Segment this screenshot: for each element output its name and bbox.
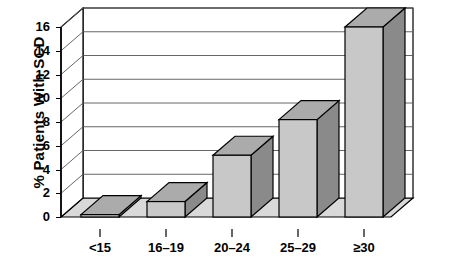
bar-side-face (383, 8, 405, 217)
bar-front-face (147, 202, 185, 217)
bar-side-face (317, 101, 339, 217)
bar-front-face (81, 215, 119, 217)
bar-4 (279, 101, 339, 217)
bar-chart-figure: % Patients With SCD 1614121086420 <1516–… (0, 0, 457, 270)
plot-area (0, 0, 457, 270)
bar-3 (213, 136, 273, 217)
bar-front-face (345, 27, 383, 217)
bar-front-face (213, 155, 251, 217)
bar-5 (345, 8, 405, 217)
x-tick-label: ≥30 (324, 240, 404, 255)
bar-front-face (279, 120, 317, 217)
